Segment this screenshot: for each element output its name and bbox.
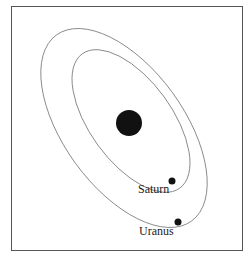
uranus-label: Uranus: [139, 224, 174, 239]
sun: [116, 110, 142, 136]
orbit-diagram: [0, 0, 251, 255]
uranus-planet: [175, 219, 182, 226]
saturn-label: Saturn: [138, 182, 169, 197]
saturn-planet: [169, 178, 176, 185]
